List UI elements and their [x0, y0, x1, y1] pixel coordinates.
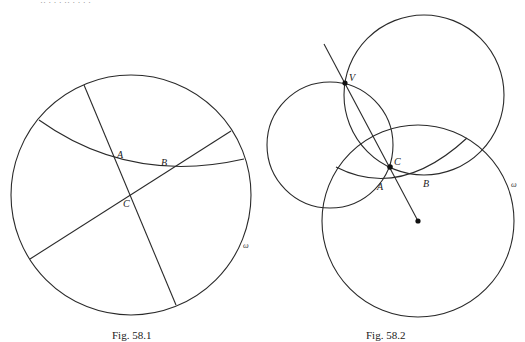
point-center [415, 218, 420, 223]
left-circle [267, 82, 393, 208]
label-A: A [116, 149, 124, 160]
top-text-fragment: ·· · · · ·· · · · · [40, 0, 91, 7]
figures-canvas: ·· · · · ·· · · · · A B C ω Fig. 58.1 V … [0, 0, 525, 342]
line-V-C-center [324, 44, 418, 221]
figure-58-2: V C A B ω Fig. 58.2 [267, 15, 517, 341]
label-C: C [123, 198, 130, 209]
label-B: B [423, 178, 429, 189]
label-A: A [376, 181, 384, 192]
label-B: B [161, 157, 167, 168]
figure-58-1: A B C ω Fig. 58.1 [11, 75, 251, 341]
point-V [342, 80, 347, 85]
label-C: C [394, 156, 401, 167]
point-C [387, 164, 393, 170]
chord-through-B-C [30, 131, 231, 259]
arc-A-B [39, 120, 244, 166]
arc-A-B [336, 138, 467, 178]
caption: Fig. 58.2 [366, 329, 405, 341]
label-omega: ω [243, 241, 249, 250]
caption: Fig. 58.1 [112, 329, 151, 341]
label-omega: ω [511, 180, 517, 189]
label-V: V [349, 72, 357, 83]
